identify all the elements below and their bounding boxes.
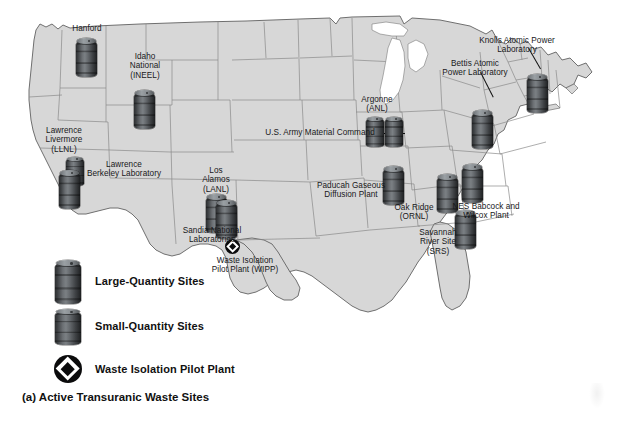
legend-label-large-quantity: Large-Quantity Sites	[95, 275, 205, 287]
barrel-body	[55, 262, 81, 304]
legend-label-small-quantity: Small-Quantity Sites	[95, 320, 204, 332]
barrel-body	[55, 311, 81, 345]
barrel-lid-mark	[70, 262, 73, 264]
figure-map-transuranic-waste-sites: Hanford Idaho National (INEEL) Lawrence …	[0, 0, 629, 427]
legend-barrel-small-icon	[55, 311, 81, 345]
wipp-diamond-ring	[56, 357, 81, 382]
scan-artifact	[589, 383, 605, 409]
wipp-diamond-core	[61, 362, 75, 376]
legend-barrel-large-icon	[55, 262, 81, 304]
legend-label-wipp: Waste Isolation Pilot Plant	[95, 363, 235, 375]
figure-caption: (a) Active Transuranic Waste Sites	[22, 391, 209, 403]
legend-wipp-diamond-icon	[54, 355, 82, 383]
legend: Large-Quantity Sites Small-Quantity Site…	[0, 0, 629, 427]
